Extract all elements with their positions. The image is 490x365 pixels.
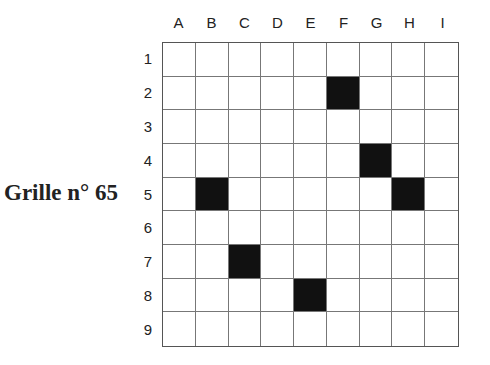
grid-cell-e5[interactable] [294, 178, 327, 212]
column-label-f: F [327, 14, 360, 31]
grid-cell-d5[interactable] [261, 178, 294, 212]
grid-cell-h6[interactable] [392, 211, 425, 245]
grid-cell-f9[interactable] [327, 312, 360, 346]
grid-cell-d4[interactable] [261, 144, 294, 178]
grid-cell-d9[interactable] [261, 312, 294, 346]
grid-cell-i3[interactable] [425, 110, 458, 144]
grid-cell-f3[interactable] [327, 110, 360, 144]
grid-cell-a4[interactable] [163, 144, 196, 178]
grid-cell-h7[interactable] [392, 245, 425, 279]
grid-cell-d1[interactable] [261, 43, 294, 77]
grid-cell-e9[interactable] [294, 312, 327, 346]
grid-cell-d6[interactable] [261, 211, 294, 245]
grid-cell-i5[interactable] [425, 178, 458, 212]
grid-cell-e7[interactable] [294, 245, 327, 279]
grid-cell-g3[interactable] [360, 110, 393, 144]
grid-cell-e2[interactable] [294, 77, 327, 111]
column-label-a: A [162, 14, 195, 31]
grid-cell-a8[interactable] [163, 279, 196, 313]
grid-cell-e1[interactable] [294, 43, 327, 77]
grid-cell-c3[interactable] [229, 110, 262, 144]
row-label-4: 4 [140, 152, 156, 169]
row-label-1: 1 [140, 50, 156, 67]
column-label-e: E [294, 14, 327, 31]
grid-cell-d3[interactable] [261, 110, 294, 144]
grid-cell-b2[interactable] [196, 77, 229, 111]
grid-cell-i1[interactable] [425, 43, 458, 77]
crossword-grid [162, 42, 459, 347]
grid-cell-a9[interactable] [163, 312, 196, 346]
grid-cell-g7[interactable] [360, 245, 393, 279]
grid-cell-g5[interactable] [360, 178, 393, 212]
grid-cell-f4[interactable] [327, 144, 360, 178]
row-label-2: 2 [140, 84, 156, 101]
grid-cell-a5[interactable] [163, 178, 196, 212]
black-cell-e8 [294, 279, 327, 313]
grid-cell-a2[interactable] [163, 77, 196, 111]
grid-cell-c1[interactable] [229, 43, 262, 77]
grid-cell-a3[interactable] [163, 110, 196, 144]
grid-cell-e6[interactable] [294, 211, 327, 245]
black-cell-b5 [196, 178, 229, 212]
grid-cell-e3[interactable] [294, 110, 327, 144]
black-cell-c7 [229, 245, 262, 279]
grid-cell-g9[interactable] [360, 312, 393, 346]
grid-cell-b6[interactable] [196, 211, 229, 245]
grid-cell-h9[interactable] [392, 312, 425, 346]
grid-cell-h8[interactable] [392, 279, 425, 313]
grid-cell-d7[interactable] [261, 245, 294, 279]
black-cell-f2 [327, 77, 360, 111]
column-label-g: G [360, 14, 393, 31]
row-label-3: 3 [140, 118, 156, 135]
grid-cell-f7[interactable] [327, 245, 360, 279]
grid-cell-a7[interactable] [163, 245, 196, 279]
grid-cell-f6[interactable] [327, 211, 360, 245]
grid-cell-i6[interactable] [425, 211, 458, 245]
grid-cell-i7[interactable] [425, 245, 458, 279]
grid-cell-d8[interactable] [261, 279, 294, 313]
grid-cell-b1[interactable] [196, 43, 229, 77]
grid-cell-i8[interactable] [425, 279, 458, 313]
row-label-6: 6 [140, 219, 156, 236]
row-label-7: 7 [140, 253, 156, 270]
row-label-9: 9 [140, 321, 156, 338]
grid-cell-h4[interactable] [392, 144, 425, 178]
grid-cell-g2[interactable] [360, 77, 393, 111]
grid-cell-h3[interactable] [392, 110, 425, 144]
column-label-d: D [261, 14, 294, 31]
black-cell-h5 [392, 178, 425, 212]
grid-cell-c8[interactable] [229, 279, 262, 313]
grid-cell-b9[interactable] [196, 312, 229, 346]
grid-cell-f5[interactable] [327, 178, 360, 212]
grid-cell-c5[interactable] [229, 178, 262, 212]
row-label-8: 8 [140, 287, 156, 304]
column-label-i: I [426, 14, 459, 31]
grid-cell-e4[interactable] [294, 144, 327, 178]
row-label-5: 5 [140, 186, 156, 203]
grid-cell-c2[interactable] [229, 77, 262, 111]
grid-cell-i2[interactable] [425, 77, 458, 111]
column-label-c: C [228, 14, 261, 31]
grid-cell-h1[interactable] [392, 43, 425, 77]
grid-cell-a1[interactable] [163, 43, 196, 77]
grid-cell-b3[interactable] [196, 110, 229, 144]
grid-cell-i9[interactable] [425, 312, 458, 346]
grid-cell-c9[interactable] [229, 312, 262, 346]
grid-cell-i4[interactable] [425, 144, 458, 178]
black-cell-g4 [360, 144, 393, 178]
column-label-b: B [195, 14, 228, 31]
grid-cell-g6[interactable] [360, 211, 393, 245]
column-label-h: H [393, 14, 426, 31]
grid-cell-b7[interactable] [196, 245, 229, 279]
grid-cell-f8[interactable] [327, 279, 360, 313]
grid-cell-b8[interactable] [196, 279, 229, 313]
grid-cell-b4[interactable] [196, 144, 229, 178]
grid-cell-c4[interactable] [229, 144, 262, 178]
grid-cell-h2[interactable] [392, 77, 425, 111]
grid-cell-d2[interactable] [261, 77, 294, 111]
grid-cell-c6[interactable] [229, 211, 262, 245]
grid-cell-a6[interactable] [163, 211, 196, 245]
grid-cell-f1[interactable] [327, 43, 360, 77]
grid-cell-g8[interactable] [360, 279, 393, 313]
grid-cell-g1[interactable] [360, 43, 393, 77]
